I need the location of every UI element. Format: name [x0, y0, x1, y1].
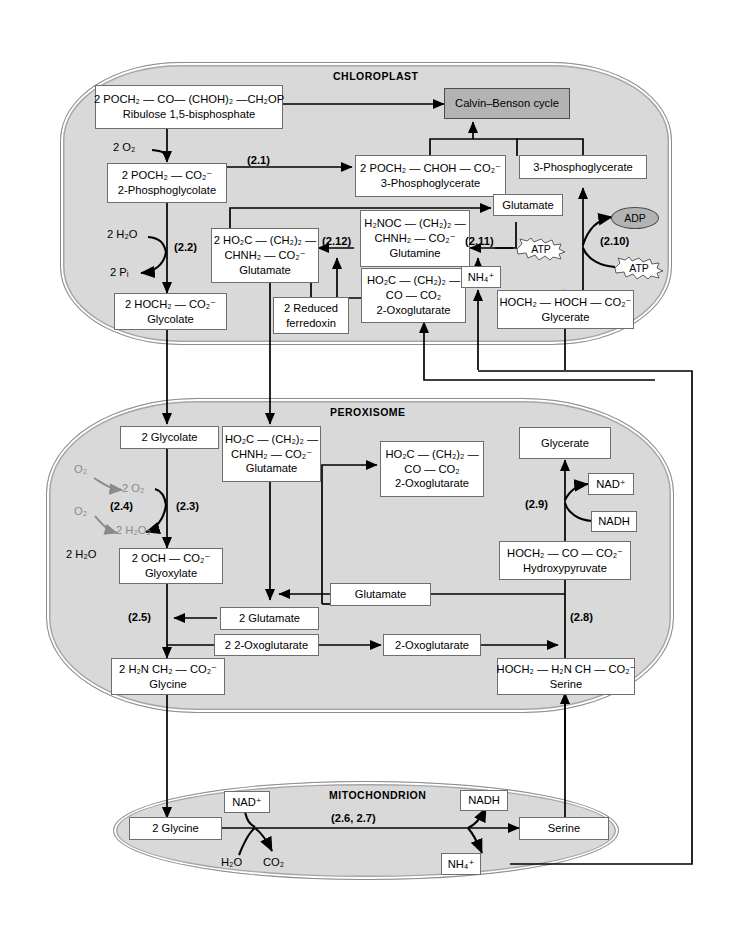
box-2-oxoglutarate-peroxisome[interactable]: HO₂C — (CH₂)₂ — CO — CO₂ 2-Oxoglutarate	[380, 441, 484, 497]
box-name: NAD⁺	[596, 477, 626, 492]
box-name: 2-Phosphoglycolate	[118, 183, 216, 198]
label-o2-b-peroxisome: O₂	[74, 505, 87, 517]
box-formula: 2 POCH₂ — CO₂⁻	[122, 168, 212, 183]
cofactor-atp-2-10: ATP	[612, 256, 666, 280]
box-nad-plus-mitochondrion[interactable]: NAD⁺	[224, 791, 270, 813]
box-name: Glycolate	[147, 312, 194, 327]
box-formula: 2 H₂N CH₂ — CO₂⁻	[119, 662, 217, 677]
box-name: 2-Oxoglutarate	[395, 638, 469, 653]
label-2-o2-chloroplast: 2 O₂	[113, 141, 135, 153]
box-formula-line2: CHNH₂ — CO₂⁻	[231, 447, 312, 462]
box-glycolate-chloroplast[interactable]: 2 HOCH₂ — CO₂⁻ Glycolate	[114, 293, 227, 330]
box-2-oxoglutarate-chloroplast[interactable]: HO₂C — (CH₂)₂ — CO — CO₂ 2-Oxoglutarate	[361, 268, 466, 323]
box-glycerate-chloroplast[interactable]: HOCH₂ — HOCH — CO₂⁻ Glycerate	[497, 290, 634, 329]
label-2-o2-peroxisome: 2 O₂	[122, 482, 144, 494]
box-formula: 2 HOCH₂ — CO₂⁻	[125, 297, 216, 312]
box-ammonium-chloroplast[interactable]: NH₄⁺	[461, 266, 501, 288]
box-hydroxypyruvate[interactable]: HOCH₂ — CO — CO₂⁻ Hydroxypyruvate	[499, 541, 631, 580]
box-name: 2-Oxoglutarate	[395, 476, 469, 491]
step-2-12: (2.12)	[322, 235, 351, 247]
box-glycerate-peroxisome[interactable]: Glycerate	[519, 427, 611, 459]
box-name: Glutamate	[502, 198, 554, 213]
box-name: Hydroxypyruvate	[523, 561, 607, 576]
box-formula: 2 POCH₂ — CHOH — CO₂⁻	[360, 161, 501, 176]
label-2-h2o-chloroplast: 2 H₂O	[107, 228, 137, 240]
box-name: Ribulose 1,5-bisphosphate	[123, 107, 255, 122]
box-serine-peroxisome[interactable]: HOCH₂ — H₂N CH — CO₂⁻ Serine	[497, 658, 635, 695]
step-2-10: (2.10)	[600, 235, 629, 247]
box-name-line2: ferredoxin	[286, 316, 336, 331]
box-formula: HO₂C — (CH₂)₂ —	[385, 447, 478, 462]
box-serine-mitochondrion[interactable]: Serine	[519, 817, 609, 840]
box-name: NH₄⁺	[468, 270, 495, 285]
cofactor-label: ADP	[624, 212, 646, 224]
box-3-phosphoglycerate[interactable]: 3-Phosphoglycerate	[519, 155, 647, 179]
box-formula: HOCH₂ — CO — CO₂⁻	[507, 546, 623, 561]
organelle-label-chloroplast: CHLOROPLAST	[333, 70, 418, 82]
box-2-glycine-mitochondrion[interactable]: 2 Glycine	[129, 817, 222, 840]
box-glutamine-chloroplast[interactable]: H₂NOC — (CH₂)₂ — CHNH₂ — CO₂⁻ Glutamine	[360, 210, 470, 267]
box-name: Serine	[550, 677, 582, 692]
box-name: Glutamate	[239, 263, 291, 278]
box-2-2-oxoglutarate-peroxisome[interactable]: 2 2-Oxoglutarate	[214, 634, 319, 656]
organelle-label-peroxisome: PEROXISOME	[330, 406, 406, 418]
box-formula: 2 POCH₂ — CO— (CHOH)₂ —CH₂OP	[94, 92, 284, 107]
box-nadh-peroxisome[interactable]: NADH	[591, 511, 637, 532]
label-co2-mitochondrion: CO₂	[263, 856, 284, 868]
box-2-oxoglutarate-mid-peroxisome[interactable]: 2-Oxoglutarate	[383, 634, 481, 656]
box-formula-line2: CHNH₂ — CO₂⁻	[224, 248, 305, 263]
box-formula: HO₂C — (CH₂)₂ —	[367, 273, 460, 288]
box-name: Glyoxylate	[145, 566, 197, 581]
box-reduced-ferredoxin[interactable]: 2 Reduced ferredoxin	[273, 297, 349, 334]
box-name: 3-Phosphoglycerate	[533, 160, 633, 175]
box-ribulose-bisphosphate[interactable]: 2 POCH₂ — CO— (CHOH)₂ —CH₂OP Ribulose 1,…	[95, 85, 283, 129]
label-h2o-mitochondrion: H₂O	[221, 856, 242, 868]
box-name: Glycine	[149, 677, 186, 692]
box-3-phosphoglycerate-formula[interactable]: 2 POCH₂ — CHOH — CO₂⁻ 3-Phosphoglycerate	[355, 155, 506, 197]
box-nadh-mitochondrion[interactable]: NADH	[460, 790, 508, 811]
box-name: 2 2-Oxoglutarate	[225, 638, 308, 653]
box-formula: 2 HO₂C — (CH₂)₂ —	[214, 233, 317, 248]
box-name: Glycerate	[542, 310, 590, 325]
label-2-h2o2-peroxisome: 2 H₂O₂	[116, 524, 151, 536]
step-2-5: (2.5)	[128, 611, 151, 623]
box-2-glutamate-peroxisome[interactable]: 2 Glutamate	[220, 607, 319, 630]
box-ammonium-mitochondrion[interactable]: NH₄⁺	[441, 853, 481, 875]
box-glutamate-small-chloroplast[interactable]: Glutamate	[493, 194, 563, 216]
step-2-2: (2.2)	[174, 241, 197, 253]
box-formula-line2: CO — CO₂	[404, 462, 459, 477]
label-2-pi-chloroplast: 2 Pᵢ	[110, 266, 129, 278]
box-name: Calvin–Benson cycle	[455, 96, 559, 111]
box-nad-plus-peroxisome[interactable]: NAD⁺	[588, 473, 634, 495]
box-2-phosphoglycolate[interactable]: 2 POCH₂ — CO₂⁻ 2-Phosphoglycolate	[107, 163, 227, 203]
box-calvin-benson-cycle[interactable]: Calvin–Benson cycle	[444, 88, 570, 119]
box-name: 2-Oxoglutarate	[376, 303, 450, 318]
step-2-8: (2.8)	[570, 611, 593, 623]
box-2-glycolate-peroxisome[interactable]: 2 Glycolate	[120, 426, 219, 449]
box-name: 2 Reduced	[284, 301, 338, 316]
step-2-1: (2.1)	[247, 154, 270, 166]
box-name: 3-Phosphoglycerate	[381, 176, 481, 191]
box-glutamate-chloroplast[interactable]: 2 HO₂C — (CH₂)₂ — CHNH₂ — CO₂⁻ Glutamate	[211, 228, 319, 283]
box-formula: HOCH₂ — HOCH — CO₂⁻	[499, 295, 631, 310]
box-name: Glutamate	[355, 587, 407, 602]
box-formula: HOCH₂ — H₂N CH — CO₂⁻	[497, 662, 636, 677]
cofactor-label: ATP	[531, 243, 551, 255]
box-formula-line2: CHNH₂ — CO₂⁻	[374, 231, 455, 246]
box-glyoxylate[interactable]: 2 OCH — CO₂⁻ Glyoxylate	[119, 548, 223, 584]
step-2-6-2-7: (2.6, 2.7)	[331, 812, 376, 824]
cofactor-label: ATP	[629, 262, 649, 274]
organelle-label-mitochondrion: MITOCHONDRION	[329, 789, 426, 801]
box-name: 2 Glutamate	[239, 611, 300, 626]
box-name: 2 Glycine	[152, 821, 199, 836]
step-2-11: (2.11)	[465, 235, 494, 247]
step-2-4: (2.4)	[110, 500, 133, 512]
box-name: NH₄⁺	[448, 857, 475, 872]
box-formula: 2 OCH — CO₂⁻	[132, 551, 211, 566]
cofactor-atp-2-11: ATP	[514, 237, 568, 261]
box-glutamate-mid-peroxisome[interactable]: Glutamate	[330, 583, 431, 606]
box-name: NAD⁺	[232, 795, 262, 810]
box-glutamate-peroxisome[interactable]: HO₂C — (CH₂)₂ — CHNH₂ — CO₂⁻ Glutamate	[222, 426, 321, 482]
step-2-3: (2.3)	[176, 500, 199, 512]
box-glycine-peroxisome[interactable]: 2 H₂N CH₂ — CO₂⁻ Glycine	[111, 658, 225, 695]
